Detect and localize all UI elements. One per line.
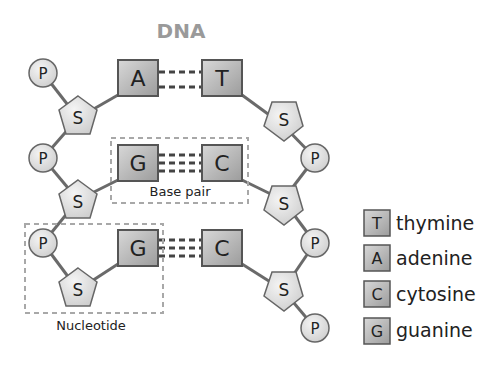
legend-letter: A [372, 249, 383, 268]
phosphate-label: P [310, 320, 319, 338]
dna-diagram: DNA Base pair Nucleotide [0, 0, 489, 376]
base-letter: A [130, 66, 145, 91]
diagram-title: DNA [157, 19, 206, 43]
legend-letter: G [371, 322, 383, 341]
base-letter: G [129, 151, 146, 176]
legend-name: adenine [396, 247, 472, 269]
legend-name: cytosine [396, 283, 476, 305]
base-pair-label: Base pair [150, 184, 212, 199]
legend-name: thymine [396, 212, 474, 234]
sugar-label: S [279, 280, 290, 300]
base-letter: C [214, 236, 229, 261]
base-letter: T [214, 66, 229, 91]
phosphate-label: P [310, 235, 319, 253]
sugar-label: S [73, 280, 84, 300]
phosphate-label: P [310, 150, 319, 168]
legend: T A C G thymine adenine cytosine guanine [364, 210, 476, 344]
legend-name: guanine [396, 319, 473, 341]
sugar-label: S [73, 108, 84, 128]
sugar-label: S [279, 194, 290, 214]
hydrogen-bonds [159, 72, 202, 256]
legend-letter: C [371, 285, 382, 304]
legend-letter: T [371, 214, 382, 233]
phosphate-label: P [38, 150, 47, 168]
base-letter: G [129, 236, 146, 261]
sugar-label: S [279, 110, 290, 130]
base-letter: C [214, 151, 229, 176]
nucleotide-label: Nucleotide [56, 318, 126, 333]
phosphate-label: P [38, 235, 47, 253]
phosphate-label: P [38, 65, 47, 83]
sugar-label: S [73, 192, 84, 212]
